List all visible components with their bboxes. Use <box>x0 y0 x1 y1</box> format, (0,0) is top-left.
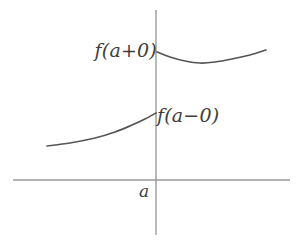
curve-left-branch <box>47 113 156 146</box>
curve-right-branch <box>157 50 266 63</box>
figure-canvas <box>0 0 306 244</box>
upper-limit-label: f(a+0) <box>95 41 157 60</box>
math-figure: f(a+0) f(a−0) a <box>0 0 306 244</box>
x-tick-label-a: a <box>139 183 149 200</box>
lower-limit-label: f(a−0) <box>157 106 219 125</box>
